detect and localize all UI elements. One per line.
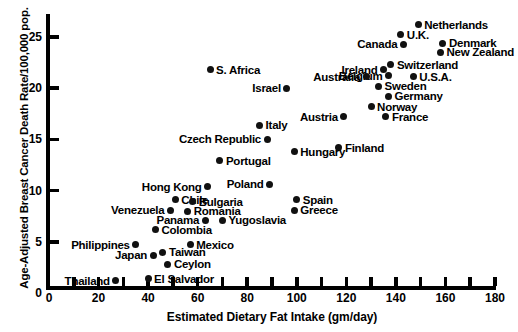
x-tick-140 (394, 277, 398, 286)
data-point (415, 21, 422, 28)
y-axis-line (46, 14, 50, 290)
x-tick-label-100: 100 (277, 291, 317, 305)
data-point-label: Yugoslavia (228, 215, 286, 226)
data-point-label: Taiwan (169, 247, 206, 258)
x-tick-70 (221, 277, 225, 286)
data-point-label: Netherlands (424, 19, 488, 30)
data-point (219, 217, 226, 224)
data-point (283, 85, 290, 92)
y-tick-label-10: 10 (8, 184, 42, 198)
data-point (293, 196, 300, 203)
data-point-label: Poland (227, 179, 264, 190)
data-point-label: Finland (345, 142, 384, 153)
data-point-label: Japan (115, 250, 147, 261)
data-point (172, 196, 179, 203)
x-tick-label-40: 40 (128, 291, 168, 305)
x-tick-label-80: 80 (227, 291, 267, 305)
x-tick-label-0: 0 (29, 291, 69, 305)
x-tick-80 (245, 277, 249, 286)
data-point (375, 83, 382, 90)
data-point-label: Canada (357, 39, 397, 50)
data-point-label: Portugal (226, 155, 271, 166)
x-tick-label-160: 160 (425, 291, 465, 305)
x-tick-label-60: 60 (178, 291, 218, 305)
data-point-label: Ceylon (174, 259, 211, 270)
data-point (368, 103, 375, 110)
y-tick-15 (50, 138, 59, 142)
data-point (437, 49, 444, 56)
x-tick-90 (270, 277, 274, 286)
x-tick-label-180: 180 (475, 291, 515, 305)
data-point-label: Austria (300, 111, 338, 122)
data-point (385, 72, 392, 79)
x-tick-170 (468, 277, 472, 286)
x-tick-150 (419, 277, 423, 286)
data-point-label: Colombia (162, 224, 212, 235)
y-tick-label-20: 20 (8, 81, 42, 95)
x-axis-line (46, 286, 496, 290)
x-tick-120 (345, 277, 349, 286)
x-tick-100 (295, 277, 299, 286)
data-point-label: Greece (300, 205, 338, 216)
x-tick-180 (493, 277, 497, 286)
data-point-label: New Zealand (446, 47, 514, 58)
data-point-label: Australia (313, 71, 360, 82)
cropped-title-remnant (70, 0, 400, 5)
data-point (256, 122, 263, 129)
data-point-label: S. Africa (216, 64, 260, 75)
data-point (152, 226, 159, 233)
data-point (167, 207, 174, 214)
y-tick-5 (50, 240, 59, 244)
data-point (400, 41, 407, 48)
data-point-label: El Salvador (154, 273, 214, 284)
data-point-label: Israel (252, 83, 281, 94)
data-point (164, 261, 171, 268)
data-point (387, 61, 394, 68)
data-point (291, 148, 298, 155)
x-tick-label-140: 140 (376, 291, 416, 305)
data-point-label: Italy (266, 120, 288, 131)
data-point (216, 157, 223, 164)
x-tick-160 (444, 277, 448, 286)
data-point (385, 93, 392, 100)
data-point-label: Thailand (65, 275, 110, 286)
x-axis-label: Estimated Dietary Fat Intake (gm/day) (49, 310, 495, 324)
data-point (382, 113, 389, 120)
y-tick-25 (50, 35, 59, 39)
y-tick-20 (50, 86, 59, 90)
data-point (291, 207, 298, 214)
y-tick-10 (50, 189, 59, 193)
data-point (340, 113, 347, 120)
x-tick-130 (369, 277, 373, 286)
data-point (112, 277, 119, 284)
x-tick-110 (320, 277, 324, 286)
data-point-label: Czech Republic (179, 134, 261, 145)
y-tick-label-15: 15 (8, 132, 42, 146)
data-point-label: Hong Kong (142, 181, 202, 192)
x-tick-30 (122, 277, 126, 286)
data-point (159, 249, 166, 256)
data-point (207, 66, 214, 73)
y-axis-label: Age-Adjusted Breast Cancer Death Rate/10… (18, 3, 30, 293)
data-point (145, 275, 152, 282)
data-point (264, 136, 271, 143)
data-point-label: Switzerland (397, 59, 458, 70)
x-tick-label-20: 20 (79, 291, 119, 305)
data-point (204, 183, 211, 190)
scatter-chart: Age-Adjusted Breast Cancer Death Rate/10… (0, 0, 518, 332)
data-point (132, 241, 139, 248)
data-point (150, 252, 157, 259)
data-point-label: Hungary (300, 146, 345, 157)
data-point-label: U.K. (407, 29, 429, 40)
data-point (266, 181, 273, 188)
data-point-label: France (392, 111, 428, 122)
y-tick-label-5: 5 (8, 235, 42, 249)
y-tick-label-25: 25 (8, 30, 42, 44)
data-point (397, 31, 404, 38)
x-tick-label-120: 120 (326, 291, 366, 305)
data-point (439, 40, 446, 47)
